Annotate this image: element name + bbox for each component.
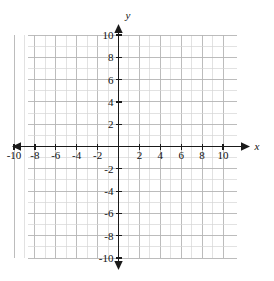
y-tick-label: -8	[104, 230, 114, 242]
y-tick-label: 4	[108, 96, 114, 108]
y-tick-label: -4	[104, 185, 114, 197]
x-axis-arrow-right	[241, 142, 250, 150]
x-axis-label: x	[254, 140, 260, 152]
x-tick-label: 4	[158, 149, 164, 161]
x-tick-label: -10	[7, 149, 22, 161]
y-axis-arrow-down	[114, 261, 122, 270]
y-tick-label: -2	[104, 163, 113, 175]
x-tick-label: 8	[199, 149, 205, 161]
y-tick-label: 6	[108, 74, 114, 86]
x-tick-label: -8	[30, 149, 40, 161]
x-tick-label: 10	[218, 149, 230, 161]
y-tick-label: 8	[108, 51, 114, 63]
x-tick-label: 2	[137, 149, 143, 161]
x-tick-label: 6	[178, 149, 184, 161]
y-tick-label: 10	[103, 29, 115, 41]
coordinate-grid-svg: -10-8-6-4-2246810 108642-2-4-6-8-10 x y	[0, 0, 274, 281]
x-tick-label: -2	[93, 149, 102, 161]
y-axis-arrow-up	[114, 24, 122, 33]
x-tick-label: -6	[51, 149, 61, 161]
y-tick-label: -6	[104, 207, 114, 219]
x-tick-label: -4	[72, 149, 82, 161]
y-axis-label: y	[125, 9, 131, 21]
coordinate-plane-figure: -10-8-6-4-2246810 108642-2-4-6-8-10 x y	[0, 0, 274, 281]
y-tick-label: 2	[108, 118, 114, 130]
axis-lines	[12, 24, 250, 270]
y-tick-label: -10	[99, 252, 114, 264]
